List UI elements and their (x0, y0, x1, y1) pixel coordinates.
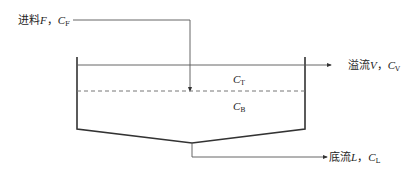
feed-conc: C (58, 14, 65, 26)
bottom-zone-label: CB (233, 100, 246, 116)
feed-label: 进料F，CF (18, 14, 70, 30)
underflow-conc-sub: L (375, 157, 380, 165)
underflow-line (192, 143, 327, 157)
underflow-label: 底流L，CL (329, 151, 380, 167)
top-zone-conc-sub: T (240, 79, 245, 87)
overflow-label: 溢流V，CV (348, 59, 400, 75)
top-zone-label: CT (233, 73, 245, 89)
overflow-var: V (370, 59, 377, 71)
overflow-conc: C (388, 59, 395, 71)
tank-outline (77, 57, 305, 143)
feed-var: F (40, 14, 47, 26)
bottom-zone-conc-sub: B (240, 106, 245, 114)
feed-sep: ， (47, 14, 58, 27)
feed-conc-sub: F (65, 20, 70, 28)
feed-prefix: 进料 (18, 14, 40, 27)
overflow-conc-sub: V (395, 65, 400, 73)
feed-line (73, 20, 190, 91)
overflow-prefix: 溢流 (348, 59, 370, 72)
underflow-prefix: 底流 (329, 151, 351, 164)
overflow-sep: ， (377, 59, 388, 72)
underflow-sep: ， (357, 151, 368, 164)
